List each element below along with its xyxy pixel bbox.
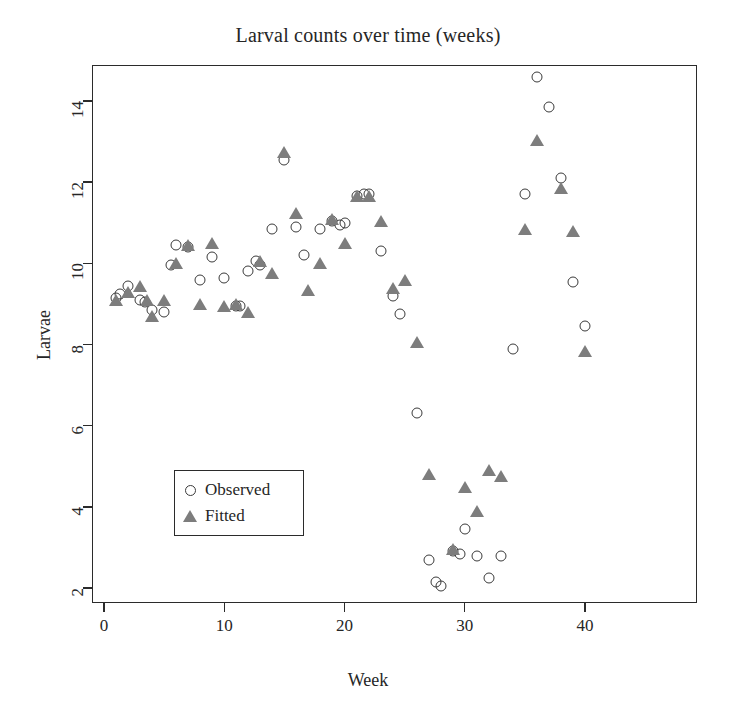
data-point-observed — [267, 223, 278, 234]
legend-item-fitted: Fitted — [175, 503, 303, 529]
data-point-fitted — [157, 294, 171, 306]
data-point-observed — [339, 217, 350, 228]
data-point-fitted — [446, 543, 460, 555]
data-point-observed — [298, 250, 309, 261]
data-point-observed — [243, 266, 254, 277]
data-point-observed — [394, 309, 405, 320]
data-point-fitted — [325, 213, 339, 225]
data-point-fitted — [422, 468, 436, 480]
data-point-observed — [435, 580, 446, 591]
data-point-fitted — [518, 223, 532, 235]
data-point-fitted — [265, 267, 279, 279]
data-point-observed — [411, 408, 422, 419]
data-point-fitted — [313, 257, 327, 269]
data-point-fitted — [277, 146, 291, 158]
data-point-observed — [567, 276, 578, 287]
data-point-observed — [507, 343, 518, 354]
data-point-fitted — [398, 274, 412, 286]
data-point-observed — [531, 71, 542, 82]
data-point-observed — [291, 221, 302, 232]
data-point-observed — [171, 240, 182, 251]
data-point-fitted — [470, 505, 484, 517]
data-point-fitted — [554, 182, 568, 194]
data-point-fitted — [181, 239, 195, 251]
data-point-fitted — [205, 237, 219, 249]
legend-item-observed: Observed — [175, 477, 303, 503]
data-point-observed — [543, 102, 554, 113]
data-point-observed — [495, 550, 506, 561]
data-point-fitted — [410, 336, 424, 348]
data-point-fitted — [253, 255, 267, 267]
data-point-observed — [315, 223, 326, 234]
data-point-fitted — [193, 298, 207, 310]
data-point-observed — [459, 524, 470, 535]
data-point-fitted — [145, 310, 159, 322]
legend: Observed Fitted — [174, 470, 304, 536]
data-point-fitted — [140, 294, 154, 306]
data-point-fitted — [458, 481, 472, 493]
data-point-fitted — [494, 470, 508, 482]
data-point-fitted — [241, 306, 255, 318]
data-point-observed — [423, 554, 434, 565]
data-point-fitted — [169, 257, 183, 269]
data-point-fitted — [374, 215, 388, 227]
data-point-fitted — [530, 134, 544, 146]
data-points-layer — [0, 0, 736, 716]
data-point-observed — [207, 252, 218, 263]
data-point-fitted — [133, 280, 147, 292]
legend-label-observed: Observed — [205, 480, 270, 500]
scatter-plot-figure: Larval counts over time (weeks) Larvae W… — [0, 0, 736, 716]
data-point-fitted — [362, 190, 376, 202]
data-point-observed — [195, 274, 206, 285]
data-point-observed — [519, 189, 530, 200]
data-point-observed — [159, 307, 170, 318]
data-point-fitted — [566, 225, 580, 237]
data-point-fitted — [301, 284, 315, 296]
data-point-fitted — [338, 237, 352, 249]
data-point-observed — [580, 321, 591, 332]
data-point-fitted — [578, 345, 592, 357]
open-circle-icon — [175, 485, 205, 496]
data-point-fitted — [289, 207, 303, 219]
legend-label-fitted: Fitted — [205, 506, 245, 526]
data-point-observed — [375, 246, 386, 257]
data-point-observed — [471, 550, 482, 561]
data-point-observed — [219, 272, 230, 283]
data-point-observed — [483, 572, 494, 583]
filled-triangle-icon — [175, 510, 205, 522]
